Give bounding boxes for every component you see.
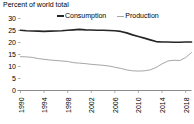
y-axis-tick-label: 25: [2, 27, 16, 34]
x-axis-tick-label: 2006: [112, 97, 119, 113]
y-axis-tick-label: 30: [2, 15, 16, 22]
x-axis-tick-label: 1994: [41, 97, 48, 113]
y-axis-tick-label: 0: [2, 87, 16, 94]
x-axis-tick-label: 2010: [135, 97, 142, 113]
y-axis-tick-label: 15: [2, 51, 16, 58]
x-axis-tick-label: 2002: [88, 97, 95, 113]
x-axis-tick-label: 1990: [18, 97, 25, 113]
x-axis-tick-label: 1998: [65, 97, 72, 113]
y-axis-tick-label: 20: [2, 39, 16, 46]
y-axis-tick-label: 10: [2, 63, 16, 70]
line-chart: Percent of world total Consumption Produ…: [0, 0, 194, 124]
y-axis-tick-label: 5: [2, 75, 16, 82]
x-axis-tick-label: 2014: [159, 97, 166, 113]
x-axis-tick-label: 2018: [183, 97, 190, 113]
